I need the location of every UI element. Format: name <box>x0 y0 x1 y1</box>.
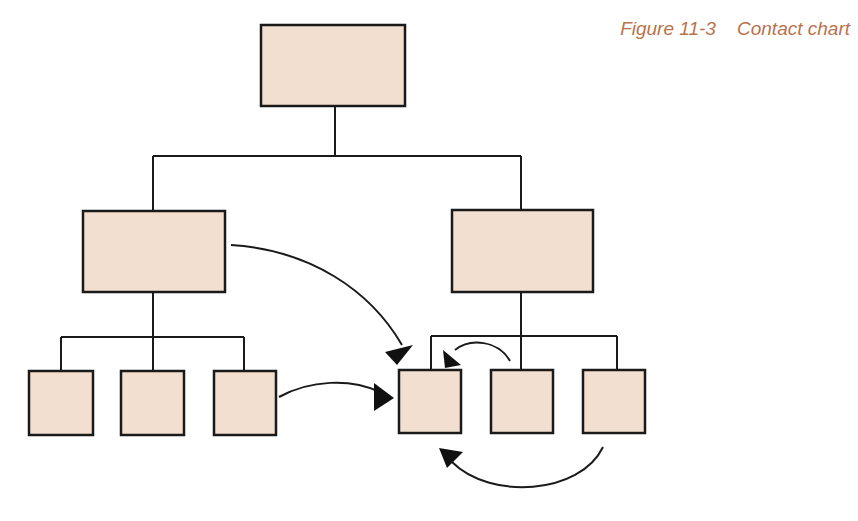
box-bottom-6 <box>583 370 645 433</box>
contact-chart-diagram <box>0 0 858 521</box>
box-bottom-3 <box>214 371 276 435</box>
box-mid-right <box>452 210 593 292</box>
box-bottom-1 <box>29 371 93 435</box>
contact-arrow-bottom-6 <box>439 447 603 487</box>
contact-arrow-bottom-3 <box>279 383 394 411</box>
contact-arrow-mid-left <box>231 245 413 365</box>
arrowhead-icon <box>439 448 463 468</box>
box-bottom-2 <box>121 371 184 435</box>
box-bottom-5 <box>491 370 553 433</box>
box-top <box>261 25 405 106</box>
contact-arrow-bottom-5 <box>443 343 510 368</box>
box-mid-left <box>83 211 225 292</box>
arrowhead-icon <box>385 345 413 365</box>
arrowhead-icon <box>443 350 461 368</box>
arrowhead-icon <box>374 383 394 411</box>
box-bottom-4 <box>399 370 461 433</box>
